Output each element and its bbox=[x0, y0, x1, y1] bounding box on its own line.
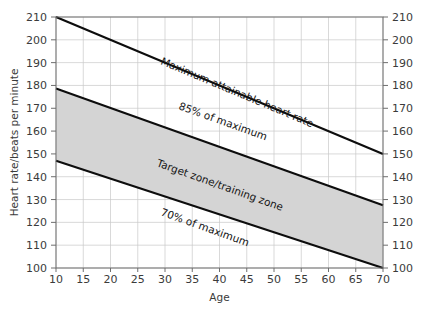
x-tick-label: 25 bbox=[131, 273, 145, 286]
y-tick-label-left: 120 bbox=[26, 216, 47, 229]
x-tick-label: 30 bbox=[158, 273, 172, 286]
y-tick-label-left: 110 bbox=[26, 239, 47, 252]
x-tick-label: 15 bbox=[76, 273, 90, 286]
y-tick-label-right: 110 bbox=[392, 239, 413, 252]
y-tick-label-right: 160 bbox=[392, 125, 413, 138]
y-tick-label-right: 210 bbox=[392, 11, 413, 24]
x-tick-label: 60 bbox=[322, 273, 336, 286]
y-tick-label-left: 210 bbox=[26, 11, 47, 24]
x-tick-label: 70 bbox=[376, 273, 390, 286]
x-tick-label: 45 bbox=[240, 273, 254, 286]
y-tick-label-right: 120 bbox=[392, 216, 413, 229]
x-tick-label: 50 bbox=[267, 273, 281, 286]
y-tick-label-left: 140 bbox=[26, 171, 47, 184]
y-tick-label-left: 130 bbox=[26, 194, 47, 207]
x-tick-label: 55 bbox=[294, 273, 308, 286]
y-axis-title: Heart rate/beats per minute bbox=[8, 69, 20, 217]
x-tick-label: 10 bbox=[49, 273, 63, 286]
y-tick-label-right: 140 bbox=[392, 171, 413, 184]
x-tick-label: 40 bbox=[213, 273, 227, 286]
y-tick-label-left: 200 bbox=[26, 34, 47, 47]
y-tick-label-right: 100 bbox=[392, 262, 413, 275]
y-tick-label-left: 160 bbox=[26, 125, 47, 138]
y-tick-label-right: 180 bbox=[392, 79, 413, 92]
y-tick-label-right: 200 bbox=[392, 34, 413, 47]
x-tick-label: 65 bbox=[349, 273, 363, 286]
x-axis-title: Age bbox=[209, 291, 229, 303]
chart-canvas: 210 200 190 180 170 160 150 140 130 120 … bbox=[0, 0, 429, 310]
x-tick-label: 35 bbox=[185, 273, 199, 286]
y-tick-label-right: 190 bbox=[392, 57, 413, 70]
x-tick-label: 20 bbox=[104, 273, 118, 286]
y-tick-label-left: 170 bbox=[26, 102, 47, 115]
y-tick-label-right: 170 bbox=[392, 102, 413, 115]
y-tick-label-left: 190 bbox=[26, 57, 47, 70]
heart-rate-chart: 210 200 190 180 170 160 150 140 130 120 … bbox=[0, 0, 429, 310]
y-tick-label-left: 100 bbox=[26, 262, 47, 275]
y-tick-label-left: 180 bbox=[26, 79, 47, 92]
y-tick-label-right: 130 bbox=[392, 194, 413, 207]
y-tick-label-left: 150 bbox=[26, 148, 47, 161]
y-tick-label-right: 150 bbox=[392, 148, 413, 161]
